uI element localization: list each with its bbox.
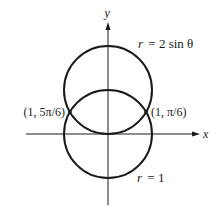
polar-graph-figure: x y r = 2 sin θ r = 1 (1, 5π/6) (1, π/6)	[0, 0, 216, 214]
y-axis: y	[104, 6, 111, 205]
y-axis-label: y	[104, 6, 111, 20]
curve-label-r-1: r = 1	[137, 170, 164, 185]
x-axis-label: x	[202, 127, 209, 141]
y-axis-arrow-icon	[106, 22, 111, 30]
curve-label-r-2sin-theta: r = 2 sin θ	[138, 36, 193, 51]
intersection-label-right: (1, π/6)	[151, 105, 186, 119]
x-axis-arrow-icon	[192, 132, 200, 137]
x-axis: x	[26, 127, 209, 141]
intersection-point-right	[144, 110, 148, 114]
intersection-point-left	[68, 110, 72, 114]
intersection-label-left: (1, 5π/6)	[24, 105, 65, 119]
